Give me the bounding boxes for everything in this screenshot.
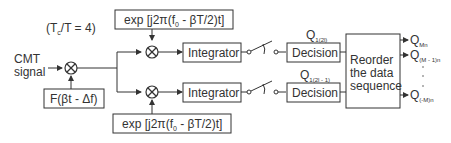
ellipsis-dots	[422, 66, 423, 86]
output-label-2: Q(-M)n	[410, 88, 434, 103]
ratio-label: (Tc/T = 4)	[46, 21, 96, 36]
integrator-top-label: Integrator	[188, 46, 239, 60]
cmt-receiver-block-diagram: (Tc/T = 4) CMT signal F(βt - Δf) exp [j2…	[0, 0, 451, 143]
output-label-0: QMn	[410, 33, 428, 48]
q-top-label: Q1(2l)	[306, 28, 327, 43]
reorder-line3: sequence	[350, 79, 402, 93]
decision-top-label: Decision	[292, 46, 338, 60]
exp-bottom-label: exp [j2π(f0 - βT/2)t]	[122, 117, 222, 132]
mixer-bottom-icon	[146, 86, 158, 98]
exp-top-label: exp [j2π(f0 - βT/2)t]	[124, 13, 224, 28]
reorder-line1: Reorder	[350, 53, 393, 67]
decision-bottom-label: Decision	[292, 86, 338, 100]
sampling-switch-top-icon	[241, 41, 286, 54]
q-bottom-label: Q1(2l - 1)	[300, 68, 330, 83]
chirp-reference-label: F(βt - Δf)	[50, 92, 98, 106]
input-label-line2: signal	[14, 65, 45, 79]
output-label-1: Q(M - 1)n	[410, 48, 440, 63]
mixer-icon	[65, 62, 77, 74]
sampling-switch-bottom-icon	[241, 81, 286, 94]
integrator-bottom-label: Integrator	[188, 86, 239, 100]
input-label-line1: CMT	[14, 52, 41, 66]
mixer-top-icon	[146, 46, 158, 58]
reorder-line2: the data	[350, 66, 394, 80]
